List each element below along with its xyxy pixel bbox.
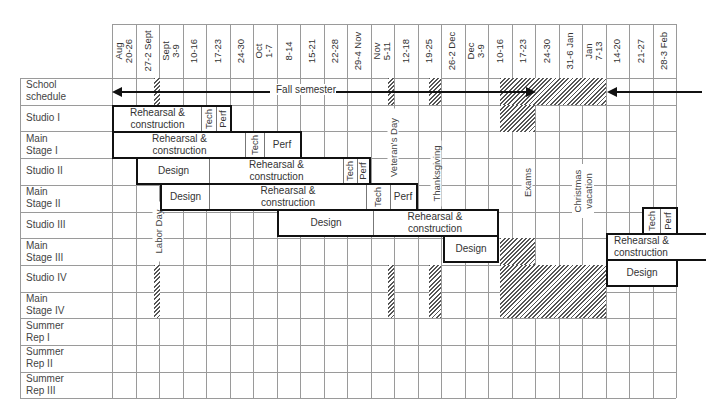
grid-row-line — [20, 238, 676, 239]
row-label: Summer Rep II — [26, 345, 110, 372]
column-header: 24-30 — [535, 24, 559, 78]
perf-label: Perf — [357, 162, 369, 179]
column-header-label: 24-30 — [236, 39, 246, 63]
fall-semester-label: Fall semester — [274, 84, 338, 95]
studio-2-bar: Design Rehearsal & construction Tech Per… — [136, 157, 371, 185]
column-header-label: 22-28 — [330, 39, 340, 63]
row-label: Studio I — [26, 105, 110, 132]
column-header: Sept 3-9 — [159, 24, 183, 78]
main-stage-1-bar: Rehearsal & construction Tech Perf — [112, 131, 302, 159]
column-header: 21-27 — [629, 24, 653, 78]
column-header-label: 21-27 — [636, 39, 646, 63]
perf-segment: Perf — [264, 133, 299, 157]
grid-row-line — [20, 318, 676, 319]
column-header-label: 28-3 Feb — [659, 32, 669, 70]
grid-row-line — [20, 372, 676, 373]
rehearsal-segment: Rehearsal & construction — [373, 211, 496, 235]
row-label: Main Stage III — [26, 238, 110, 265]
studio-1-bar: Rehearsal & construction Tech Perf — [112, 105, 232, 133]
column-header: 10-16 — [488, 24, 512, 78]
column-header: 10-16 — [183, 24, 207, 78]
tech-label: Tech — [249, 135, 261, 155]
design-segment: Design — [279, 211, 373, 235]
column-header-label: 10-16 — [495, 39, 505, 63]
row-label: Main Stage I — [26, 131, 110, 158]
tech-label: Tech — [372, 187, 384, 207]
column-header-label: 15-21 — [307, 39, 317, 63]
column-header-label: 17-23 — [213, 39, 223, 63]
column-header-label: Oct 1-7 — [255, 44, 275, 59]
column-header: 8-14 — [277, 24, 301, 78]
column-header: 15-21 — [300, 24, 324, 78]
perf-segment: Perf — [357, 159, 368, 183]
column-header: Nov 5-11 — [371, 24, 395, 78]
veterans-day-hatch-stages — [388, 265, 394, 318]
grid-row-line — [20, 398, 676, 399]
column-header-label: 31-6 Jan — [565, 33, 575, 70]
column-header: 28-3 Feb — [653, 24, 677, 78]
column-header-label: 24-30 — [542, 39, 552, 63]
column-header: 17-23 — [206, 24, 230, 78]
row-label: School schedule — [26, 78, 110, 105]
column-header: Jan 7-13 — [582, 24, 606, 78]
column-header-label: 10-16 — [189, 39, 199, 63]
tech-segment: Tech — [366, 185, 390, 209]
tech-segment: Tech — [343, 159, 357, 183]
column-header-label: Aug 20-26 — [114, 39, 134, 63]
column-header-label: Dec 3-9 — [466, 43, 486, 60]
column-header: Dec 3-9 — [465, 24, 489, 78]
column-header: 27-2 Sept — [136, 24, 160, 78]
column-header: 22-28 — [324, 24, 348, 78]
column-header: 24-30 — [230, 24, 254, 78]
grid-row-line — [20, 345, 676, 346]
column-header: 19-25 — [418, 24, 442, 78]
column-header-label: Sept 3-9 — [161, 41, 181, 61]
perf-label: Perf — [217, 110, 229, 127]
fall-semester-arrow-right — [336, 91, 526, 93]
veterans-day-label: Veteran's Day — [388, 109, 399, 187]
studio-4-design-bar: Design — [606, 259, 678, 287]
row-label: Main Stage IV — [26, 292, 110, 319]
main-stage-2-bar: Design Rehearsal & construction Tech Per… — [160, 183, 418, 211]
rehearsal-segment: Rehearsal & construction — [608, 235, 706, 259]
tech-label: Tech — [203, 109, 215, 129]
christmas-vacation-label: Christmas vacation — [572, 164, 594, 218]
column-header-label: 29-4 Nov — [354, 32, 364, 71]
column-header-label: Jan 7-13 — [584, 41, 604, 60]
column-header: 26-2 Dec — [441, 24, 465, 78]
design-segment: Design — [608, 261, 676, 285]
arrowhead-left-icon — [607, 87, 617, 97]
column-header: 29-4 Nov — [347, 24, 371, 78]
rehearsal-segment: Rehearsal & construction — [209, 159, 343, 183]
arrowhead-left-icon — [112, 87, 122, 97]
tech-segment: Tech — [201, 107, 216, 131]
exams-hatch-main-stage-3 — [500, 238, 535, 265]
exams-christmas-hatch-stages — [500, 265, 606, 318]
row-label: Summer Rep III — [26, 372, 110, 399]
design-segment: Design — [138, 159, 209, 183]
column-header-label: 27-2 Sept — [142, 30, 152, 71]
rehearsal-segment: Rehearsal & construction — [209, 185, 366, 209]
studio-3-tech-perf-bar: Tech Perf — [642, 207, 678, 235]
row-label: Studio II — [26, 158, 110, 185]
column-header: 14-20 — [606, 24, 630, 78]
column-header-label: 26-2 Dec — [448, 32, 458, 71]
column-header-label: 8-14 — [283, 41, 293, 60]
column-header-label: 12-18 — [401, 39, 411, 63]
perf-segment: Perf — [660, 209, 675, 233]
exams-label: Exams — [522, 163, 533, 203]
row-label: Studio IV — [26, 265, 110, 292]
tech-segment: Tech — [245, 133, 264, 157]
perf-segment: Perf — [390, 185, 415, 209]
studio-3-bar: Design Rehearsal & construction — [277, 209, 499, 237]
main-stage-3-rehearsal-bar: Rehearsal & construction — [606, 233, 706, 261]
thanksgiving-label: Thanksgiving — [431, 141, 442, 207]
design-segment: Design — [162, 185, 209, 209]
column-header-label: 19-25 — [424, 39, 434, 63]
column-header-label: Nov 5-11 — [372, 42, 392, 60]
row-label: Studio III — [26, 212, 110, 239]
tech-segment: Tech — [644, 209, 660, 233]
main-stage-3-design-bar: Design — [443, 235, 499, 263]
perf-segment: Perf — [216, 107, 229, 131]
tech-label: Tech — [345, 161, 357, 181]
